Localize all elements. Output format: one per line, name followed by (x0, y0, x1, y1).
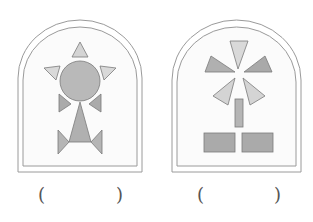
rectangle-pole (235, 99, 243, 127)
answer-blank-right-paren-2: ) (274, 186, 281, 204)
figures-canvas (0, 0, 313, 222)
figure-robot (18, 20, 142, 172)
answer-blank-right-paren-1: ) (116, 186, 123, 204)
rectangle-base-left (204, 133, 235, 152)
answer-blank-left-paren-1: ( (38, 186, 45, 204)
rectangle-base-right (242, 133, 273, 152)
figure-windmill (172, 20, 301, 172)
circle-head (60, 61, 100, 101)
answer-blank-left-paren-2: ( (197, 186, 204, 204)
